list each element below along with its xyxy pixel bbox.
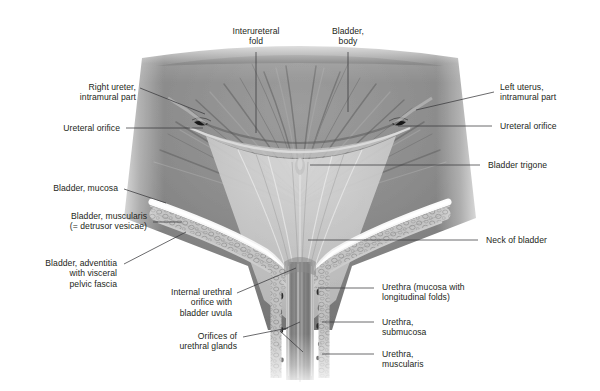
label-ureteral-orifice-left: Ureteral orifice xyxy=(8,123,120,133)
label-urethra-mucosa: Urethra (mucosa with longitudinal folds) xyxy=(382,282,506,303)
label-urethra-submucosa: Urethra, submucosa xyxy=(382,317,468,338)
label-bladder-mucosa: Bladder, mucosa xyxy=(8,183,118,193)
label-bladder-trigone: Bladder trigone xyxy=(488,160,592,170)
label-interureteral-fold: Interureteral fold xyxy=(206,26,306,47)
label-right-ureter: Right ureter, intramural part xyxy=(8,82,136,103)
label-ureteral-orifice-right: Ureteral orifice xyxy=(500,121,596,131)
label-urethra-muscularis: Urethra, muscularis xyxy=(382,349,468,370)
urethra xyxy=(260,257,340,391)
bladder-illustration xyxy=(0,0,600,391)
left-fade xyxy=(110,40,164,230)
label-orifices-urethral-glands: Orifices of urethral glands xyxy=(140,331,237,352)
label-internal-urethral-orifice: Internal urethral orifice with bladder u… xyxy=(135,287,232,318)
label-left-uterus: Left uterus, intramural part xyxy=(500,82,598,103)
figure-canvas: Interureteral fold Bladder, body Right u… xyxy=(0,0,600,391)
label-neck-of-bladder: Neck of bladder xyxy=(486,235,590,245)
label-bladder-muscularis: Bladder, muscularis (= detrusor vesicae) xyxy=(4,211,147,232)
label-bladder-body: Bladder, body xyxy=(306,26,390,47)
right-fade xyxy=(436,40,490,230)
label-bladder-adventitia: Bladder, adventitia with visceral pelvic… xyxy=(4,258,117,289)
